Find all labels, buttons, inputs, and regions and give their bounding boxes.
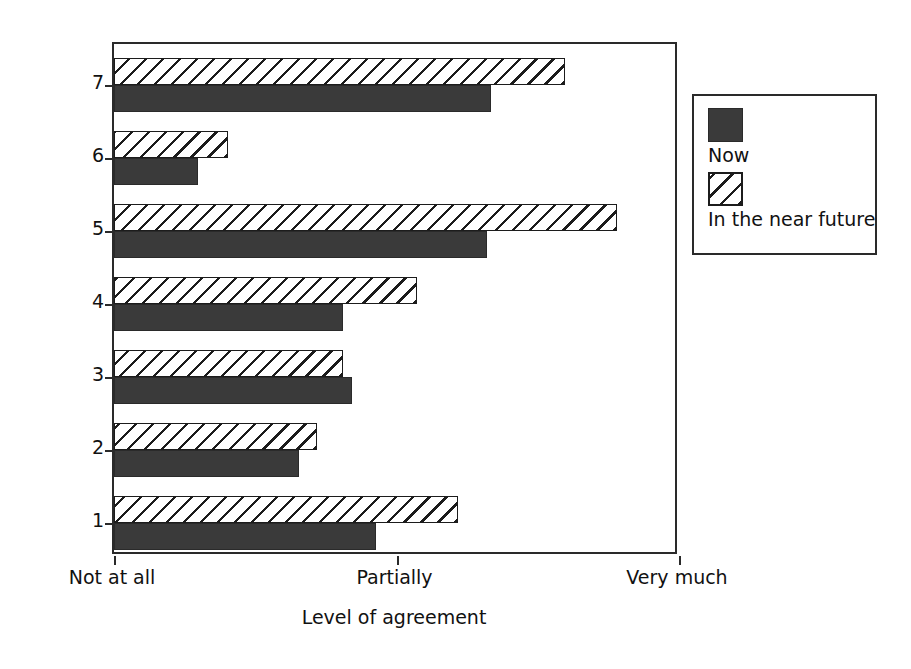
chart-legend: Now In the near future — [692, 94, 877, 255]
bar-future-5 — [114, 204, 617, 231]
y-axis-tick-labels: 1234567 — [56, 42, 104, 554]
y-tick-label-2: 2 — [64, 438, 104, 457]
bar-now-1 — [114, 523, 376, 550]
y-tick-5 — [105, 231, 114, 233]
plot-area — [112, 42, 677, 554]
y-tick-label-1: 1 — [64, 511, 104, 530]
y-tick-1 — [105, 523, 114, 525]
x-axis-tick-labels: Not at allPartiallyVery much — [0, 566, 911, 596]
hatched-swatch-icon — [708, 172, 743, 206]
y-tick-label-6: 6 — [64, 146, 104, 165]
bar-future-3 — [114, 350, 343, 377]
y-tick-6 — [105, 158, 114, 160]
x-tick-label-1: Partially — [356, 566, 432, 588]
legend-item-future: In the near future — [708, 172, 875, 230]
x-tick-2 — [679, 556, 681, 565]
y-tick-label-3: 3 — [64, 365, 104, 384]
bar-now-3 — [114, 377, 352, 404]
y-tick-7 — [105, 85, 114, 87]
x-axis-title: Level of agreement — [302, 606, 487, 628]
y-tick-2 — [105, 450, 114, 452]
y-tick-label-5: 5 — [64, 219, 104, 238]
bar-now-2 — [114, 450, 299, 477]
x-tick-1 — [397, 556, 399, 565]
legend-label-future: In the near future — [708, 208, 875, 230]
bar-future-7 — [114, 58, 565, 85]
bar-now-5 — [114, 231, 487, 258]
legend-label-now: Now — [708, 144, 875, 166]
x-tick-label-2: Very much — [626, 566, 727, 588]
solid-dark-swatch-icon — [708, 108, 743, 142]
bar-future-2 — [114, 423, 317, 450]
bar-now-4 — [114, 304, 343, 331]
bar-now-6 — [114, 158, 198, 185]
bar-future-1 — [114, 496, 458, 523]
legend-item-now: Now — [708, 108, 875, 166]
y-tick-4 — [105, 304, 114, 306]
y-tick-label-4: 4 — [64, 292, 104, 311]
bar-now-7 — [114, 85, 491, 112]
bar-future-4 — [114, 277, 417, 304]
y-tick-label-7: 7 — [64, 73, 104, 92]
y-tick-3 — [105, 377, 114, 379]
chart-canvas: Characteristics 1234567 Not at allPartia… — [0, 0, 911, 669]
x-tick-label-0: Not at all — [69, 566, 156, 588]
bar-future-6 — [114, 131, 228, 158]
x-tick-0 — [114, 556, 116, 565]
